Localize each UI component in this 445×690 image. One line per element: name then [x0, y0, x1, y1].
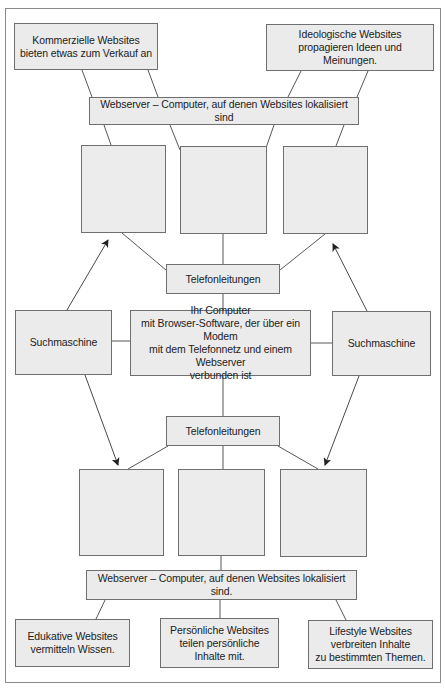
phone-lines-top-label: Telefonleitungen	[186, 273, 261, 286]
search-engine-left-label: Suchmaschine	[30, 336, 98, 349]
lifestyle-websites-label: Lifestyle Websites verbreiten Inhalte zu…	[315, 625, 425, 664]
personal-websites-label: Persönliche Websites teilen persönliche …	[170, 624, 269, 663]
lifestyle-websites-box: Lifestyle Websites verbreiten Inhalte zu…	[308, 620, 433, 669]
webserver-top-box: Webserver – Computer, auf denen Websites…	[89, 97, 359, 125]
phone-lines-bottom-label: Telefonleitungen	[186, 425, 261, 438]
bottom-site-box-1	[79, 469, 164, 556]
ideological-websites-label: Ideologische Websites propagieren Ideen …	[271, 28, 429, 67]
webserver-bottom-box: Webserver – Computer, auf denen Websites…	[86, 570, 357, 600]
website-network-diagram: Kommerzielle Websites bieten etwas zum V…	[0, 0, 445, 690]
ideological-websites-box: Ideologische Websites propagieren Ideen …	[266, 24, 434, 71]
phone-lines-bottom-box: Telefonleitungen	[166, 416, 280, 446]
top-site-box-3	[283, 146, 368, 234]
search-engine-right-box: Suchmaschine	[332, 311, 431, 376]
bottom-site-box-3	[280, 469, 367, 557]
top-site-box-2	[180, 146, 267, 234]
search-engine-left-box: Suchmaschine	[15, 310, 112, 375]
bottom-site-box-2	[178, 469, 265, 556]
webserver-top-label: Webserver – Computer, auf denen Websites…	[94, 98, 354, 124]
your-computer-box: Ihr Computer mit Browser-Software, der ü…	[130, 310, 311, 376]
webserver-bottom-label: Webserver – Computer, auf denen Websites…	[91, 572, 352, 598]
commercial-websites-box: Kommerzielle Websites bieten etwas zum V…	[14, 23, 158, 70]
educational-websites-box: Edukative Websites vermitteln Wissen.	[15, 619, 130, 667]
your-computer-label: Ihr Computer mit Browser-Software, der ü…	[135, 304, 306, 382]
search-engine-right-label: Suchmaschine	[348, 337, 416, 350]
phone-lines-top-box: Telefonleitungen	[166, 264, 280, 294]
personal-websites-box: Persönliche Websites teilen persönliche …	[160, 618, 279, 668]
educational-websites-label: Edukative Websites vermitteln Wissen.	[27, 630, 117, 656]
top-site-box-1	[81, 145, 166, 233]
commercial-websites-label: Kommerzielle Websites bieten etwas zum V…	[20, 34, 152, 60]
